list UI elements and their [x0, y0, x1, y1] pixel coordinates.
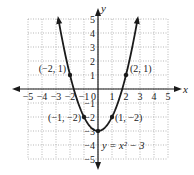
point-label: (1, −2)	[115, 112, 142, 124]
y-tick-label: 4	[90, 28, 95, 39]
y-tick-label: −3	[84, 126, 95, 137]
x-tick-label: 4	[152, 91, 157, 102]
point-label: (−1, −2)	[48, 112, 81, 124]
y-axis-label: y	[100, 2, 106, 14]
arrowhead-icon	[134, 16, 140, 24]
y-tick-label: 5	[90, 14, 95, 25]
origin-label: 0	[91, 91, 96, 102]
point-marker	[110, 115, 114, 119]
x-tick-label: 1	[110, 91, 115, 102]
point-marker	[68, 73, 72, 77]
point-marker	[124, 73, 128, 77]
y-tick-label: −4	[84, 140, 95, 151]
point-marker	[96, 129, 100, 133]
y-tick-label: 1	[90, 70, 95, 81]
x-tick-label: −3	[51, 91, 62, 102]
x-tick-label: 2	[124, 91, 129, 102]
point-marker	[82, 115, 86, 119]
x-tick-label: −2	[65, 91, 76, 102]
y-tick-label: 3	[90, 42, 95, 53]
parabola-chart: −5−4−3−2−112345−5−4−3−2−112345 (−2, 1)(2…	[0, 0, 194, 175]
x-tick-label: 3	[138, 91, 143, 102]
equation-label: y = x² − 3	[101, 140, 144, 151]
point-label: (2, 1)	[130, 63, 152, 75]
x-tick-label: −5	[23, 91, 34, 102]
y-tick-label: −5	[84, 154, 95, 165]
arrowhead-icon	[56, 16, 62, 24]
x-tick-label: −4	[37, 91, 48, 102]
axes	[12, 8, 182, 170]
x-tick-label: 5	[166, 91, 171, 102]
x-axis-label: x	[182, 83, 188, 95]
point-label: (−2, 1)	[39, 63, 66, 75]
y-tick-label: 2	[90, 56, 95, 67]
